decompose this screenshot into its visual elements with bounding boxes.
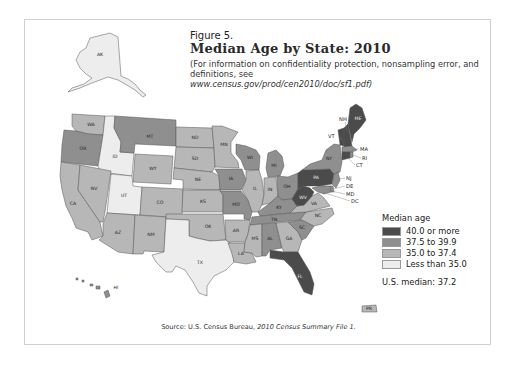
label-WI: WI	[247, 155, 253, 160]
label-NY: NY	[326, 156, 332, 161]
state-HI	[76, 278, 110, 298]
source-prefix: Source: U.S. Census Bureau,	[161, 323, 257, 331]
state-MT	[114, 116, 176, 153]
label-OR: OR	[80, 146, 88, 151]
label-TN: TN	[270, 217, 277, 222]
label-CO: CO	[157, 200, 164, 205]
label-WA: WA	[87, 122, 95, 127]
callout-DC: DC	[351, 198, 359, 204]
label-NC: NC	[315, 213, 322, 218]
us-median: U.S. median: 37.2	[382, 277, 467, 287]
legend-label: 35.0 to 37.4	[406, 248, 457, 258]
label-TX: TX	[196, 260, 203, 265]
callout-MA: MA	[360, 146, 368, 152]
label-KY: KY	[276, 205, 282, 210]
state-MD	[312, 186, 331, 194]
source-note: Source: U.S. Census Bureau, 2010 Census …	[0, 323, 517, 331]
label-AK: AK	[97, 52, 104, 57]
callout-VT: VT	[328, 133, 336, 139]
label-IN: IN	[268, 187, 273, 192]
label-PA: PA	[313, 175, 319, 180]
label-MT: MT	[147, 134, 154, 139]
label-GA: GA	[286, 236, 294, 241]
label-IL: IL	[253, 186, 257, 191]
state-RI	[350, 152, 353, 158]
legend-swatch	[382, 260, 401, 269]
label-UT: UT	[121, 193, 127, 198]
label-WV: WV	[299, 195, 308, 200]
legend: Median age 40.0 or more 37.5 to 39.9 35.…	[382, 213, 467, 287]
label-NV: NV	[91, 186, 98, 191]
label-MS: MS	[252, 236, 259, 241]
label-WY: WY	[149, 166, 157, 171]
label-SC: SC	[299, 225, 305, 230]
label-VA: VA	[311, 201, 318, 206]
label-KS: KS	[200, 199, 206, 204]
callout-CT: CT	[356, 162, 364, 168]
label-MI: MI	[271, 163, 276, 168]
callout-DE: DE	[346, 183, 353, 189]
label-PR: PR	[366, 306, 373, 311]
label-NE: NE	[195, 177, 201, 182]
label-ND: ND	[192, 135, 199, 140]
us-map: AK WA OR CA ID NV MT WY UT CO AZ NM ND S…	[0, 0, 517, 368]
legend-label: Less than 35.0	[406, 259, 467, 269]
legend-item-35-0: 35.0 to 37.4	[382, 248, 467, 258]
state-MN	[212, 126, 239, 168]
label-FL: FL	[297, 274, 303, 279]
legend-swatch	[382, 249, 401, 258]
callout-RI: RI	[362, 155, 368, 161]
label-AR: AR	[233, 228, 240, 233]
label-NM: NM	[147, 232, 154, 237]
state-VT	[338, 128, 344, 146]
legend-swatch	[382, 238, 401, 247]
legend-item-37-5: 37.5 to 39.9	[382, 237, 467, 247]
label-MN: MN	[220, 142, 227, 147]
legend-item-less-35: Less than 35.0	[382, 259, 467, 269]
label-ID: ID	[113, 154, 118, 159]
label-AZ: AZ	[115, 230, 121, 235]
label-MO: MO	[232, 202, 240, 207]
label-OH: OH	[283, 184, 290, 189]
label-ME: ME	[355, 116, 362, 121]
callout-MD: MD	[346, 191, 354, 197]
legend-label: 37.5 to 39.9	[406, 237, 457, 247]
legend-label: 40.0 or more	[406, 226, 460, 236]
source-title: 2010 Census Summary File 1.	[257, 323, 356, 331]
label-CA: CA	[70, 201, 77, 206]
callout-NH: NH	[339, 116, 347, 122]
state-NY	[302, 144, 342, 174]
label-AL: AL	[267, 236, 273, 241]
callout-NJ: NJ	[346, 175, 352, 182]
label-HI: HI	[114, 285, 119, 290]
state-MA	[342, 146, 357, 152]
legend-title: Median age	[382, 213, 467, 223]
legend-item-40-plus: 40.0 or more	[382, 226, 467, 236]
label-OK: OK	[205, 224, 213, 229]
legend-swatch	[382, 227, 401, 236]
label-SD: SD	[192, 156, 199, 161]
state-ME	[348, 104, 366, 142]
label-LA: LA	[238, 251, 245, 256]
state-FL	[270, 250, 314, 295]
state-AK	[68, 33, 146, 97]
